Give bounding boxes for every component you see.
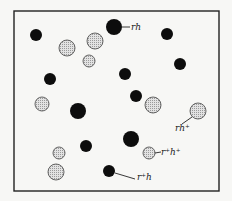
light-particle bbox=[190, 103, 206, 119]
light-particle bbox=[53, 147, 65, 159]
label-r-plus-h: r⁺h bbox=[137, 172, 152, 182]
light-particle bbox=[87, 33, 103, 49]
light-particle bbox=[35, 97, 49, 111]
light-particle bbox=[48, 164, 64, 180]
label-r-plus-h-plus: r⁺h⁺ bbox=[161, 147, 181, 157]
dark-particle bbox=[103, 165, 115, 177]
label-rh: rh bbox=[131, 22, 141, 32]
light-particle bbox=[143, 147, 155, 159]
dark-particle bbox=[70, 103, 86, 119]
light-particles bbox=[35, 33, 206, 180]
dark-particle bbox=[119, 68, 131, 80]
dark-particle bbox=[123, 131, 139, 147]
dark-particle bbox=[30, 29, 42, 41]
dark-particle bbox=[80, 140, 92, 152]
dark-particle bbox=[161, 28, 173, 40]
dark-particle bbox=[174, 58, 186, 70]
light-particle bbox=[59, 40, 75, 56]
dark-particle bbox=[44, 73, 56, 85]
light-particle bbox=[145, 97, 161, 113]
particle-diagram: rh rh⁺ r⁺h⁺ r⁺h bbox=[0, 0, 232, 201]
light-particle bbox=[83, 55, 95, 67]
label-rh-plus: rh⁺ bbox=[175, 123, 190, 133]
dark-particle bbox=[130, 90, 142, 102]
dark-particle bbox=[106, 19, 122, 35]
leader-line bbox=[115, 173, 135, 179]
